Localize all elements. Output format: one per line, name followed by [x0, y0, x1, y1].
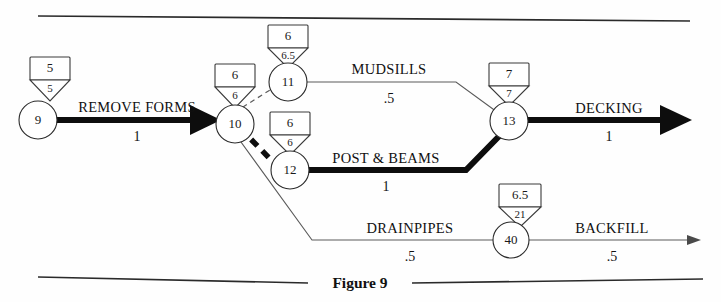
edge-backfill	[528, 235, 701, 245]
node-40[interactable]: 6.5 21 40	[493, 184, 541, 258]
activity-label-drainpipes: DRAINPIPES	[367, 220, 454, 236]
node-9-id: 9	[35, 112, 42, 127]
caption-left-rule	[38, 277, 308, 283]
node-13-triangle-value: 7	[506, 87, 512, 99]
activity-duration-backfill: .5	[607, 249, 618, 264]
node-12[interactable]: 6 6 12	[270, 112, 310, 189]
activity-label-mudsills: MUDSILLS	[352, 61, 427, 77]
network-diagram-canvas: 5 5 9 6 6 10 6 6.5 11 6 6	[0, 0, 721, 302]
node-11-box-value: 6	[285, 28, 292, 43]
node-11-triangle-value: 6.5	[281, 49, 295, 61]
edge-mudsills	[305, 82, 508, 120]
activity-duration-decking: 1	[606, 129, 613, 144]
node-12-box-value: 6	[287, 115, 294, 130]
node-9-triangle-value: 5	[47, 82, 53, 94]
node-10-id: 10	[229, 116, 242, 131]
node-12-id: 12	[284, 162, 297, 177]
node-40-id: 40	[505, 232, 518, 247]
figure-page: 5 5 9 6 6 10 6 6.5 11 6 6	[0, 0, 721, 302]
node-11[interactable]: 6 6.5 11	[268, 25, 308, 101]
node-13[interactable]: 7 7 13	[489, 63, 529, 140]
activity-duration-mudsills: .5	[384, 91, 395, 106]
node-12-triangle-value: 6	[287, 136, 293, 148]
activity-duration-post-and-beams: 1	[383, 179, 390, 194]
node-13-id: 13	[503, 113, 516, 128]
node-10[interactable]: 6 6 10	[215, 64, 255, 143]
node-10-triangle-value: 6	[232, 89, 238, 101]
activity-label-decking: DECKING	[575, 100, 643, 116]
figure-caption: Figure 9	[332, 274, 387, 291]
activity-label-remove-forms: REMOVE FORMS	[78, 99, 196, 115]
activity-label-post-and-beams: POST & BEAMS	[332, 150, 439, 166]
activity-label-backfill: BACKFILL	[575, 220, 648, 236]
node-10-box-value: 6	[232, 67, 239, 82]
node-9-box-value: 5	[47, 60, 54, 75]
node-9[interactable]: 5 5 9	[19, 57, 70, 139]
top-divider-rule	[38, 16, 690, 21]
node-40-triangle-value: 21	[515, 208, 526, 220]
caption-right-rule	[412, 279, 703, 283]
activity-duration-remove-forms: 1	[134, 129, 141, 144]
node-11-id: 11	[282, 74, 295, 89]
activity-duration-drainpipes: .5	[405, 249, 416, 264]
node-40-box-value: 6.5	[512, 187, 528, 202]
node-13-box-value: 7	[506, 66, 513, 81]
